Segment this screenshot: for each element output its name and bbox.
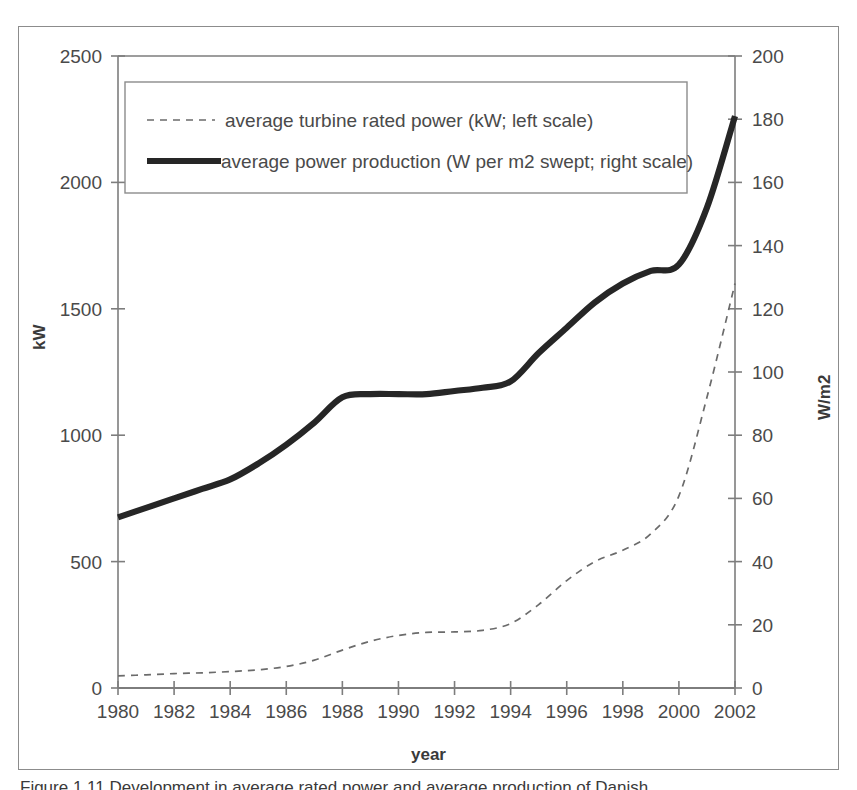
y-axis-left-tick-label: 2500 bbox=[60, 46, 102, 67]
x-axis-tick-label: 1988 bbox=[321, 701, 363, 722]
x-axis-title: year bbox=[0, 745, 857, 765]
x-axis-tick-label: 1980 bbox=[97, 701, 139, 722]
legend-box bbox=[125, 82, 687, 193]
y-axis-right-tick-label: 180 bbox=[752, 109, 784, 130]
x-axis-tick-label: 1994 bbox=[489, 701, 532, 722]
y-axis-right-tick-label: 20 bbox=[752, 615, 773, 636]
chart-plot: 0500100015002000250002040608010012014016… bbox=[19, 27, 840, 771]
y-axis-left-tick-label: 1000 bbox=[60, 425, 102, 446]
y-axis-left-title: kW bbox=[30, 325, 50, 351]
y-axis-left-tick-label: 500 bbox=[70, 552, 102, 573]
y-axis-right-tick-label: 40 bbox=[752, 552, 773, 573]
x-axis-tick-label: 2002 bbox=[714, 701, 756, 722]
x-axis-tick-label: 1982 bbox=[153, 701, 195, 722]
y-axis-right-tick-label: 140 bbox=[752, 236, 784, 257]
y-axis-left-tick-label: 0 bbox=[91, 678, 102, 699]
y-axis-left-tick-label: 2000 bbox=[60, 172, 102, 193]
y-axis-right-tick-label: 80 bbox=[752, 425, 773, 446]
y-axis-right-tick-label: 100 bbox=[752, 362, 784, 383]
x-axis-tick-label: 1984 bbox=[209, 701, 252, 722]
y-axis-right-tick-label: 60 bbox=[752, 488, 773, 509]
y-axis-right-title: W/m2 bbox=[815, 375, 835, 420]
y-axis-right-tick-label: 0 bbox=[752, 678, 763, 699]
x-axis-tick-label: 1992 bbox=[433, 701, 475, 722]
y-axis-left-tick-label: 1500 bbox=[60, 299, 102, 320]
figure-caption: Figure 1.11 Development in average rated… bbox=[20, 778, 850, 790]
x-axis-tick-label: 1986 bbox=[265, 701, 307, 722]
x-axis-tick-label: 1990 bbox=[377, 701, 419, 722]
x-axis-tick-label: 1996 bbox=[546, 701, 588, 722]
y-axis-right-tick-label: 120 bbox=[752, 299, 784, 320]
chart-frame: 0500100015002000250002040608010012014016… bbox=[18, 26, 839, 770]
x-axis-tick-label: 2000 bbox=[658, 701, 700, 722]
y-axis-right-tick-label: 160 bbox=[752, 172, 784, 193]
series-line-0 bbox=[118, 284, 735, 676]
legend-label-0: average turbine rated power (kW; left sc… bbox=[225, 110, 593, 131]
y-axis-right-tick-label: 200 bbox=[752, 46, 784, 67]
figure-container: 0500100015002000250002040608010012014016… bbox=[0, 0, 857, 790]
x-axis-tick-label: 1998 bbox=[602, 701, 644, 722]
legend-label-1: average power production (W per m2 swept… bbox=[221, 151, 693, 172]
